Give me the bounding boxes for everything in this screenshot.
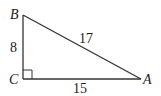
side-label-bc: 8: [10, 40, 17, 55]
right-triangle-diagram: B C A 8 17 15: [0, 0, 161, 96]
right-angle-marker-icon: [23, 70, 32, 79]
vertex-label-b: B: [10, 7, 19, 22]
vertex-label-c: C: [9, 72, 19, 87]
triangle: [23, 15, 141, 79]
side-label-ba: 17: [79, 31, 93, 46]
side-ba: [23, 15, 141, 79]
vertex-label-a: A: [142, 72, 152, 87]
side-label-ca: 15: [73, 81, 87, 96]
